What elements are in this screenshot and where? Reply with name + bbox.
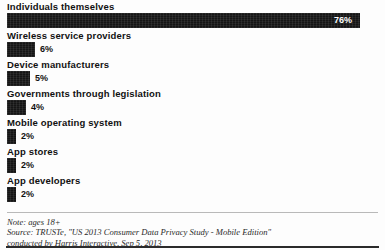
bar-track: 2%	[7, 158, 379, 173]
chart-footnote: Note: ages 18+ Source: TRUSTe, "US 2013 …	[7, 212, 378, 248]
bar-fill	[7, 100, 26, 115]
bar-track: 2%	[7, 129, 379, 144]
bar-track: 2%	[7, 187, 379, 202]
bar-track: 6%	[7, 42, 379, 57]
bar-category-label: Governments through legislation	[7, 88, 379, 100]
bar-fill	[7, 13, 360, 28]
bar-category-label: App stores	[7, 146, 379, 158]
bar-value-label: 6%	[40, 43, 53, 56]
bar-row: Wireless service providers 6%	[7, 30, 379, 59]
bar-category-label: App developers	[7, 175, 379, 187]
bar-track: 5%	[7, 71, 379, 86]
bar-value-label: 2%	[21, 130, 34, 143]
bar-row: Mobile operating system 2%	[7, 117, 379, 146]
bar-value-label: 2%	[21, 188, 34, 201]
bar-fill	[7, 42, 35, 57]
bar-value-label: 76%	[334, 14, 352, 27]
bar-row: Governments through legislation 4%	[7, 88, 379, 117]
bar-fill	[7, 129, 16, 144]
footnote-source-line-1: Source: TRUSTe, "US 2013 Consumer Data P…	[7, 227, 378, 237]
bottom-rule	[6, 246, 379, 248]
bar-category-label: Individuals themselves	[7, 1, 379, 13]
footnote-note: Note: ages 18+	[7, 217, 378, 227]
bar-row: Individuals themselves 76%	[7, 1, 379, 30]
bar-row: Device manufacturers 5%	[7, 59, 379, 88]
bar-value-label: 4%	[31, 101, 44, 114]
bar-row: App developers 2%	[7, 175, 379, 204]
bar-fill	[7, 158, 16, 173]
footnote-divider	[7, 212, 378, 213]
bar-row: App stores 2%	[7, 146, 379, 175]
bar-chart: Individuals themselves 76% Wireless serv…	[0, 0, 385, 250]
bar-fill	[7, 187, 16, 202]
bar-category-label: Device manufacturers	[7, 59, 379, 71]
bar-value-label: 2%	[21, 159, 34, 172]
bar-track: 76%	[7, 13, 379, 28]
bar-value-label: 5%	[35, 72, 48, 85]
bar-track: 4%	[7, 100, 379, 115]
bar-category-label: Wireless service providers	[7, 30, 379, 42]
bar-fill	[7, 71, 30, 86]
bar-category-label: Mobile operating system	[7, 117, 379, 129]
chart-plot-area: Individuals themselves 76% Wireless serv…	[7, 1, 379, 204]
